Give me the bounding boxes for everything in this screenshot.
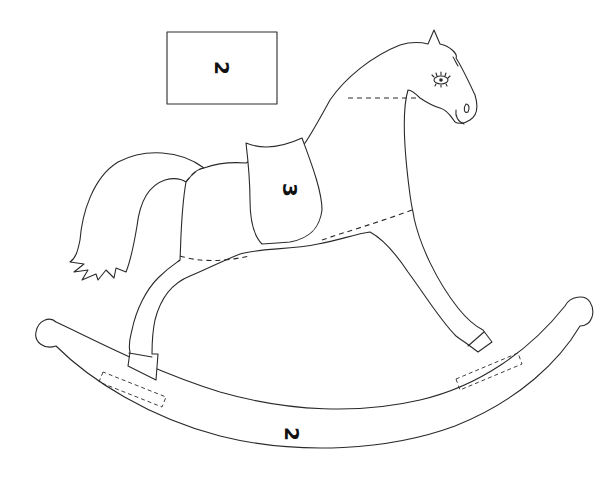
rocker-piece: 2 [36,297,593,448]
swatch-label: 2 [210,61,234,75]
swatch-piece: 2 [167,32,277,104]
rocker-outline [36,297,593,448]
pattern-canvas: 2 2 3 [0,0,612,478]
horse-piece: 3 [70,30,492,380]
rocking-horse-diagram: 2 2 3 [0,0,612,478]
saddle-label: 3 [278,183,302,197]
rocker-label: 2 [280,427,304,441]
